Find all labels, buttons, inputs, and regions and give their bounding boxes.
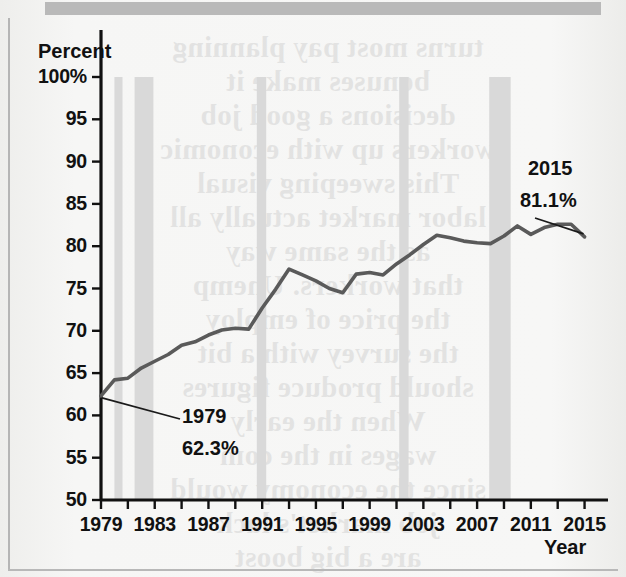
recession-band	[135, 77, 154, 500]
x-axis-tick-label: 1979	[76, 513, 126, 536]
y-axis-tick-label: 100%	[0, 65, 87, 88]
x-axis-tick-label: 2007	[452, 513, 502, 536]
end-annotation-value: 81.1%	[520, 189, 577, 212]
x-axis-tick-label: 1999	[345, 513, 395, 536]
x-axis-tick-label: 1983	[130, 513, 180, 536]
y-axis-tick-label: 75	[0, 277, 87, 300]
data-series-line	[101, 224, 585, 396]
line-chart	[0, 0, 626, 577]
y-axis-tick-label: 80	[0, 234, 87, 257]
recession-bands-group	[114, 77, 510, 500]
y-axis-tick-label: 65	[0, 361, 87, 384]
y-axis-tick-label: 95	[0, 107, 87, 130]
recession-band	[489, 77, 510, 500]
recession-band	[257, 77, 266, 500]
x-axis-tick-label: 1987	[183, 513, 233, 536]
y-axis-tick-label: 85	[0, 192, 87, 215]
y-axis-tick-label: 90	[0, 150, 87, 173]
recession-band	[114, 77, 122, 500]
y-axis-tick-label: 70	[0, 319, 87, 342]
y-axis-tick-label: 55	[0, 446, 87, 469]
recession-band	[399, 77, 408, 500]
x-axis-tick-label: 1991	[237, 513, 287, 536]
y-axis-title: Percent	[38, 40, 111, 63]
y-axis-tick-label: 60	[0, 403, 87, 426]
x-axis-tick-label: 2011	[506, 513, 556, 536]
start-annotation-value: 62.3%	[182, 437, 239, 460]
start-annotation-year: 1979	[182, 405, 227, 428]
end-annotation-year: 2015	[528, 157, 573, 180]
x-axis-tick-label: 2003	[398, 513, 448, 536]
x-axis-tick-label: 2015	[560, 513, 610, 536]
x-axis-tick-label: 1995	[291, 513, 341, 536]
x-axis-title: Year	[544, 536, 586, 559]
axes-group	[92, 30, 608, 509]
end-annotation-leader	[535, 218, 584, 234]
y-axis-tick-label: 50	[0, 488, 87, 511]
